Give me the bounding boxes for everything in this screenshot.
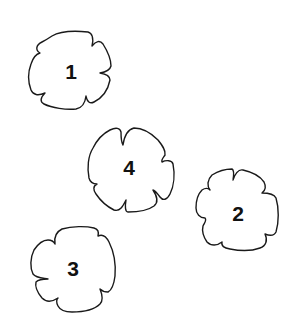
shape-label-3: 3 bbox=[67, 257, 79, 280]
shape-label-2: 2 bbox=[232, 202, 244, 225]
flower-shape-1: 1 bbox=[29, 31, 111, 109]
flower-shape-2: 2 bbox=[196, 169, 278, 250]
flower-shape-4: 4 bbox=[88, 128, 174, 212]
diagram-canvas: 1 4 2 3 bbox=[0, 0, 295, 331]
shape-label-4: 4 bbox=[123, 156, 135, 179]
flower-shape-3: 3 bbox=[31, 227, 115, 312]
shape-label-1: 1 bbox=[65, 60, 77, 83]
